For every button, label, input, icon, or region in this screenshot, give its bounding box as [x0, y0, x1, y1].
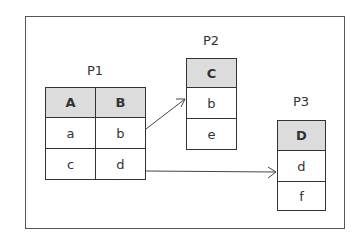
arrow-b-to-p2 — [146, 99, 185, 129]
arrow-d-to-p3 — [146, 171, 276, 172]
arrowhead-icon — [268, 167, 276, 178]
link-arrows — [0, 0, 364, 241]
